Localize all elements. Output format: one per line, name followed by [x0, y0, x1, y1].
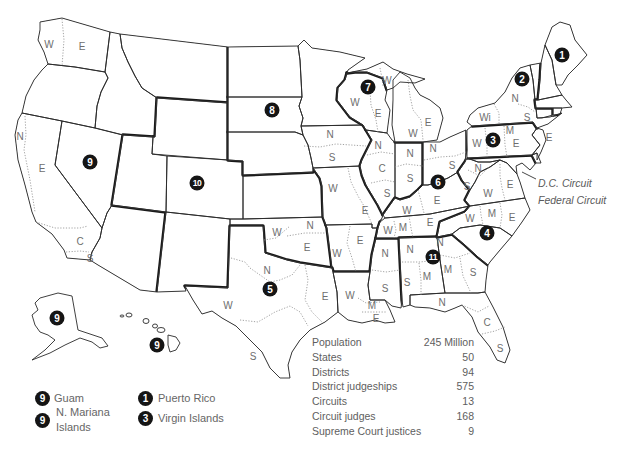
district-label: N [326, 129, 333, 140]
legend-marker-guam: 9 [35, 391, 50, 406]
district-label: W [408, 128, 418, 139]
legend-marker-virgin-islands: 3 [138, 411, 153, 426]
stats-row: Circuits13 [312, 394, 474, 409]
stats-row: Supreme Court justices9 [312, 424, 474, 439]
district-label: M [488, 208, 496, 219]
district-label: E [357, 235, 364, 246]
district-label: E [507, 179, 514, 190]
circuit-marker-9-alaska: 9 [50, 311, 65, 326]
district-label: E [362, 205, 369, 216]
stat-value: 50 [462, 350, 474, 365]
circuit-marker-6: 6 [431, 175, 446, 190]
stat-value: 9 [468, 424, 474, 439]
stats-row: Circuit judges168 [312, 409, 474, 424]
federal-circuit-label: Federal Circuit [538, 194, 607, 206]
svg-text:9: 9 [154, 340, 160, 351]
district-label: C [76, 236, 83, 247]
district-label: W [382, 75, 392, 86]
district-label: N [16, 131, 23, 142]
district-label: W [472, 138, 482, 149]
alaska-outline [32, 293, 108, 360]
district-label: S [329, 152, 336, 163]
district-label: N [263, 265, 270, 276]
svg-text:5: 5 [267, 284, 273, 295]
svg-text:9: 9 [87, 157, 93, 168]
district-label: S [449, 160, 456, 171]
district-label: S [497, 343, 504, 354]
svg-text:3: 3 [490, 135, 496, 146]
district-label: S [470, 267, 477, 278]
district-label: E [546, 132, 553, 143]
svg-text:1: 1 [559, 50, 565, 61]
stat-value: 94 [462, 365, 474, 380]
district-label: S [384, 188, 391, 199]
stats-row: States50 [312, 350, 474, 365]
judicial-circuits-map-figure: W E N E C S W N E N W E S W M E N S W E … [0, 0, 624, 458]
circuit-marker-5: 5 [263, 282, 278, 297]
district-label: N [438, 297, 445, 308]
district-label: C [483, 317, 490, 328]
district-label: W [223, 300, 233, 311]
district-label: M [368, 300, 376, 311]
stat-value: 575 [456, 379, 474, 394]
dc-circuit-label: D.C. Circuit [538, 177, 593, 189]
district-label: E [427, 217, 434, 228]
stat-label: States [312, 350, 342, 365]
stat-label: Circuits [312, 394, 347, 409]
district-label: S [404, 277, 411, 288]
circuit-marker-9-hawaii: 9 [150, 338, 165, 353]
district-label: N [374, 140, 381, 151]
district-label: E [322, 291, 329, 302]
district-label: W [44, 39, 54, 50]
district-label: S [524, 112, 531, 123]
circuit-marker-9: 9 [83, 155, 98, 170]
district-label: M [506, 125, 514, 136]
circuit-marker-8: 8 [265, 103, 280, 118]
district-label: W [328, 183, 338, 194]
legend-marker-mariana: 9 [35, 413, 50, 428]
district-label: Wi [479, 112, 491, 123]
svg-text:7: 7 [365, 82, 371, 93]
statistics-table: Population245 Million States50 Districts… [312, 335, 474, 439]
circuit-marker-11: 11 [426, 250, 441, 265]
circuit-marker-3: 3 [486, 133, 501, 148]
stat-label: Population [312, 335, 362, 350]
svg-text:11: 11 [429, 252, 438, 262]
district-label: E [509, 212, 516, 223]
district-label: W [383, 225, 393, 236]
district-label: W [332, 248, 342, 259]
district-label: S [87, 253, 94, 264]
svg-text:10: 10 [193, 178, 202, 188]
district-label: E [304, 242, 311, 253]
district-label: S [382, 283, 389, 294]
district-label: N [306, 220, 313, 231]
district-label: N [429, 143, 436, 154]
circuit-marker-1: 1 [555, 48, 570, 63]
stat-value: 13 [462, 394, 474, 409]
district-label: E [375, 108, 382, 119]
district-label: N [436, 237, 443, 248]
district-label: M [399, 222, 407, 233]
svg-text:9: 9 [54, 313, 60, 324]
district-label: W [402, 205, 412, 216]
legend-label-virgin-islands: Virgin Islands [158, 411, 224, 426]
stats-row: Districts94 [312, 365, 474, 380]
legend-label-guam: Guam [54, 391, 84, 406]
district-label: M [444, 264, 452, 275]
svg-text:8: 8 [269, 105, 275, 116]
stat-value: 168 [456, 409, 474, 424]
district-label: W [483, 188, 493, 199]
district-label: M [423, 271, 431, 282]
legend-label-puerto-rico: Puerto Rico [158, 391, 215, 406]
district-label: W [272, 227, 282, 238]
svg-text:2: 2 [519, 74, 525, 85]
district-label: W [350, 97, 360, 108]
circuit-marker-7: 7 [361, 80, 376, 95]
district-label: S [250, 351, 257, 362]
district-label: N [406, 244, 413, 255]
district-label: N [511, 93, 518, 104]
stat-label: Circuit judges [312, 409, 376, 424]
circuit-marker-4: 4 [480, 226, 495, 241]
district-label: N [474, 163, 481, 174]
stat-value: 245 Million [424, 335, 474, 350]
